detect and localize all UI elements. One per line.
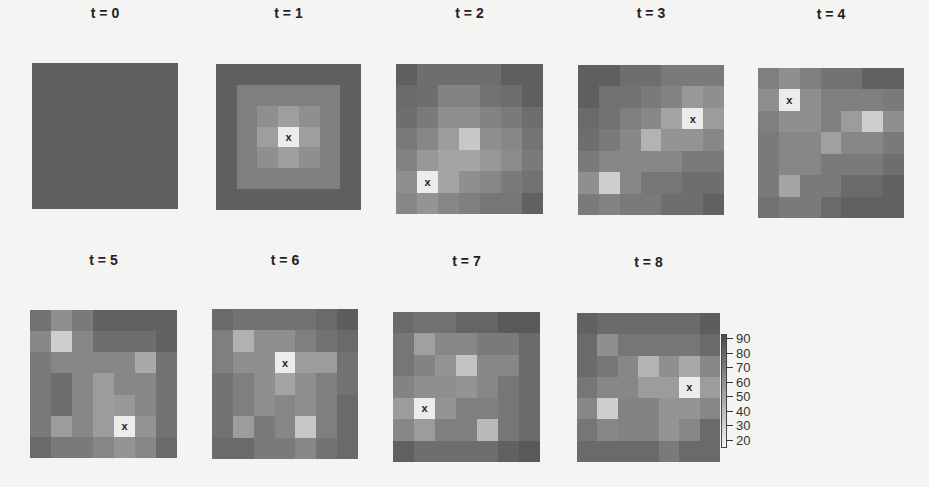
- heatmap-cell: [72, 395, 93, 416]
- panel-title: t = 8: [577, 254, 720, 270]
- heatmap-cell: [679, 441, 699, 462]
- x-marker: x: [424, 176, 430, 188]
- heatmap-cell: [700, 377, 720, 398]
- heatmap-cell: [53, 146, 74, 167]
- heatmap-cell: [821, 68, 842, 89]
- heatmap-cell: [320, 64, 341, 85]
- heatmap-cell: [435, 355, 456, 376]
- heatmap-cell: [599, 151, 620, 172]
- heatmap-cell: [74, 63, 95, 84]
- colorbar-tick: [727, 338, 733, 339]
- panel-title: t = 6: [212, 252, 358, 268]
- heatmap-cell: [237, 168, 258, 189]
- heatmap-cell: [477, 312, 498, 333]
- panel-title: t = 3: [578, 5, 724, 21]
- heatmap-cell: [682, 172, 703, 193]
- heatmap-cell: [135, 310, 156, 331]
- heatmap-cell: [30, 395, 51, 416]
- heatmap-cell: [156, 310, 177, 331]
- heatmap-cell: [480, 85, 501, 106]
- heatmap-cell: [477, 441, 498, 462]
- heatmap-cell: [679, 313, 699, 334]
- colorbar-tick: [727, 425, 733, 426]
- panel-title: t = 2: [396, 5, 543, 21]
- heatmap-cell: [157, 84, 178, 105]
- heatmap-cell: [659, 334, 679, 355]
- heatmap-cell: [316, 309, 337, 330]
- heatmap-cell: [522, 107, 543, 128]
- heatmap-cell: [659, 356, 679, 377]
- heatmap-cell: [254, 352, 275, 373]
- heatmap-cell: [703, 172, 724, 193]
- heatmap-cell: [700, 419, 720, 440]
- heatmap-cell: [800, 154, 821, 175]
- heatmap-cell: [316, 395, 337, 416]
- heatmap-cell: [800, 111, 821, 132]
- heatmap-cell: [435, 376, 456, 397]
- heatmap-cell: [295, 309, 316, 330]
- heatmap-cell: [477, 376, 498, 397]
- heatmap-cell: [522, 150, 543, 171]
- heatmap-cell: [114, 373, 135, 394]
- heatmap-cell: [841, 132, 862, 153]
- heatmap-cell: [700, 398, 720, 419]
- heatmap-cell: [638, 398, 658, 419]
- x-marker: x: [690, 113, 696, 125]
- heatmap-cell: [257, 106, 278, 127]
- heatmap-cell: [156, 416, 177, 437]
- heatmap-cell: [30, 373, 51, 394]
- heatmap-cell: [682, 129, 703, 150]
- heatmap-cell: x: [779, 89, 800, 110]
- heatmap-cell: [758, 132, 779, 153]
- heatmap-cell: [53, 84, 74, 105]
- heatmap-cell: [30, 310, 51, 331]
- heatmap-cell: [316, 416, 337, 437]
- heatmap-cell: [216, 127, 237, 148]
- heatmap-cell: [498, 355, 519, 376]
- heatmap-cell: [501, 150, 522, 171]
- colorbar: [721, 334, 727, 448]
- heatmap-cell: [72, 331, 93, 352]
- heatmap-cell: [456, 441, 477, 462]
- heatmap-cell: [216, 189, 237, 210]
- heatmap-cell: [233, 416, 254, 437]
- heatmap-cell: [638, 377, 658, 398]
- heatmap-cell: [393, 376, 414, 397]
- heatmap-cell: [779, 154, 800, 175]
- heatmap-cell: [638, 441, 658, 462]
- heatmap-cell: [316, 352, 337, 373]
- heatmap-panel-t4: x: [758, 68, 904, 218]
- heatmap-cell: [459, 193, 480, 214]
- heatmap-cell: [320, 189, 341, 210]
- heatmap-cell: [456, 419, 477, 440]
- heatmap-cell: [821, 89, 842, 110]
- heatmap-cell: [275, 330, 296, 351]
- heatmap-cell: [320, 106, 341, 127]
- heatmap-cell: [597, 441, 617, 462]
- heatmap-cell: [477, 398, 498, 419]
- heatmap-cell: [862, 132, 883, 153]
- heatmap-cell: [578, 172, 599, 193]
- colorbar-tick: [727, 353, 733, 354]
- heatmap-cell: [295, 352, 316, 373]
- heatmap-cell: [841, 89, 862, 110]
- heatmap-cell: [157, 167, 178, 188]
- heatmap-cell: [254, 416, 275, 437]
- heatmap-cell: [95, 188, 116, 209]
- colorbar-tick: [727, 440, 733, 441]
- heatmap-cell: [700, 441, 720, 462]
- heatmap-cell: [599, 129, 620, 150]
- heatmap-cell: [682, 151, 703, 172]
- heatmap-cell: [800, 175, 821, 196]
- heatmap-cell: [821, 132, 842, 153]
- heatmap-cell: [237, 106, 258, 127]
- heatmap-cell: [72, 352, 93, 373]
- heatmap-cell: [278, 147, 299, 168]
- heatmap-cell: [393, 419, 414, 440]
- heatmap-cell: [254, 373, 275, 394]
- heatmap-cell: [299, 168, 320, 189]
- heatmap-cell: [278, 85, 299, 106]
- heatmap-cell: [501, 128, 522, 149]
- heatmap-cell: [299, 147, 320, 168]
- heatmap-cell: [862, 197, 883, 218]
